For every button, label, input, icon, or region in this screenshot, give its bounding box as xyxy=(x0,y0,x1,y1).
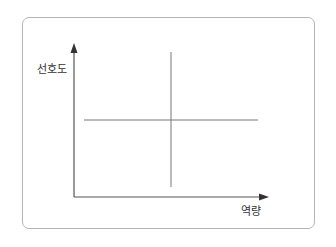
x-axis-label: 역량 xyxy=(241,202,261,218)
y-axis-arrow-icon xyxy=(71,43,78,53)
y-axis-label: 선호도 xyxy=(37,60,67,76)
x-axis-arrow-icon xyxy=(259,194,269,201)
quadrant-chart xyxy=(0,0,336,247)
